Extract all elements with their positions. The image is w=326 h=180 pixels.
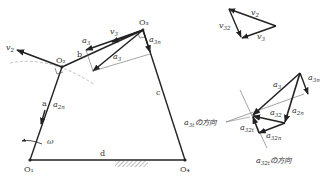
label-a3: a3 <box>113 52 122 62</box>
ap-label-a32: a32 <box>270 108 282 118</box>
label-link-d: d <box>100 149 105 158</box>
ap-label-a2n: a2n <box>292 106 304 116</box>
ap-label-a32t: a32t <box>240 123 255 133</box>
ap-label-a3: a3 <box>273 80 282 90</box>
label-link-b: b <box>77 50 82 59</box>
ap-a3n-arrow <box>300 73 308 94</box>
vp-label-v3: v3 <box>257 32 266 42</box>
label-a32t-direction: a32tの方向 <box>256 156 293 166</box>
mechanism: O₁ O₄ O₂ O₃ a b c d ω v2 a2n v3 a3 a3 a3… <box>6 18 190 174</box>
label-o4: O₄ <box>180 165 190 174</box>
omega-arrow-icon <box>22 140 42 144</box>
four-bar-linkage-diagram: O₁ O₄ O₂ O₃ a b c d ω v2 a2n v3 a3 a3 a3… <box>0 0 326 180</box>
label-a3t-direction: a3tの方向 <box>184 118 218 128</box>
label-a3t: a3 <box>82 36 91 46</box>
link-b <box>62 30 143 67</box>
label-a3n: a3n <box>149 35 161 45</box>
vp-label-v32: v32 <box>219 21 231 31</box>
joint-o3 <box>142 29 145 32</box>
ap-label-a32n: a32n <box>266 131 282 141</box>
pivot-o4 <box>183 158 186 161</box>
label-o1: O₁ <box>24 165 34 174</box>
label-link-c: c <box>156 88 161 97</box>
label-o2: O₂ <box>56 56 66 65</box>
ap-label-a3n: a3n <box>308 73 320 83</box>
label-a2n: a2n <box>53 100 65 110</box>
vp-label-v2: v2 <box>251 8 260 18</box>
ap-a32n-arrow <box>259 123 285 133</box>
label-link-a: a <box>42 99 47 108</box>
acceleration-polygon: a3 a3n a2n a32 a32t a32n a3tの方向 a32tの方向 <box>184 73 320 166</box>
label-omega: ω <box>47 137 54 146</box>
link-a <box>30 67 62 160</box>
o2-path-arc <box>10 61 95 85</box>
velocity-polygon: v2 v32 v3 <box>219 8 276 42</box>
pivot-o1 <box>28 158 31 161</box>
construction-line-2 <box>93 54 150 71</box>
label-v2: v2 <box>6 43 15 53</box>
label-o3: O₃ <box>139 18 149 27</box>
label-v3: v3 <box>110 27 119 37</box>
joint-o2 <box>61 66 64 69</box>
ground-hatch <box>115 161 148 167</box>
